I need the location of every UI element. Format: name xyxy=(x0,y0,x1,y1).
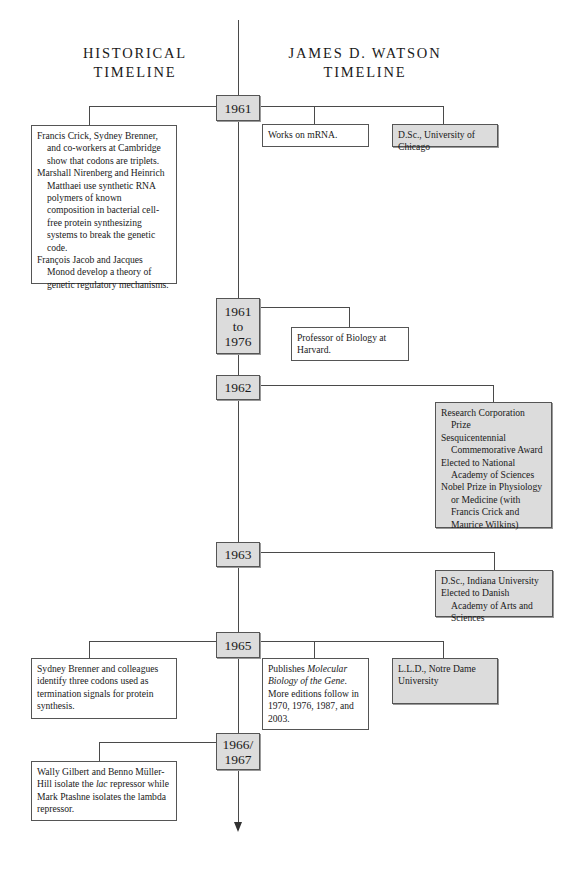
connector-1962-drop xyxy=(493,385,494,402)
gene-name: lac xyxy=(96,778,108,789)
connector-1961-mid xyxy=(314,106,315,124)
watson-award: Sesquicentennial Commemorative Award xyxy=(441,432,546,457)
watson-award: Research Corporation Prize xyxy=(441,407,546,432)
header-line: TIMELINE xyxy=(270,63,460,82)
watson-1963-awards-box: D.Sc., Indiana University Elected to Dan… xyxy=(435,570,553,617)
header-line: HISTORICAL xyxy=(60,44,210,63)
arrow-down-icon xyxy=(234,822,242,832)
watson-1961-award-box: D.Sc., University of Chicago xyxy=(392,124,498,147)
connector-1961-1976 xyxy=(260,307,349,308)
connector-1961-1976-drop xyxy=(349,307,350,327)
watson-1962-awards-box: Research Corporation Prize Sesquicentenn… xyxy=(435,402,552,528)
historical-event: Francis Crick, Sydney Brenner, and co-wo… xyxy=(37,130,171,167)
year-1966-1967: 1966/ 1967 xyxy=(216,733,260,770)
historical-1965-box: Sydney Brenner and colleagues identify t… xyxy=(31,658,177,719)
watson-1965-award-box: L.L.D., Notre Dame University xyxy=(392,658,498,704)
header-line: TIMELINE xyxy=(60,63,210,82)
historical-timeline-header: HISTORICAL TIMELINE xyxy=(60,44,210,82)
watson-timeline-header: JAMES D. WATSON TIMELINE xyxy=(270,44,460,82)
watson-award: L.L.D., Notre Dame University xyxy=(398,663,476,686)
historical-event: François Jacob and Jacques Monod develop… xyxy=(37,254,171,291)
connector-1963-drop xyxy=(494,552,495,570)
connector-1966-drop xyxy=(99,742,100,761)
watson-event: Professor of Biology at Harvard. xyxy=(297,332,386,355)
watson-1961-work-box: Works on mRNA. xyxy=(262,124,369,147)
watson-1965-work-box: Publishes Molecular Biology of the Gene.… xyxy=(262,658,369,730)
year-1961-to-1976: 1961 to 1976 xyxy=(216,298,260,354)
year-label: 1962 xyxy=(225,380,252,395)
year-label: 1966/ xyxy=(223,737,254,752)
connector-1965-left xyxy=(89,641,90,658)
watson-award: D.Sc., Indiana University xyxy=(441,575,547,587)
connector-1965-right xyxy=(443,641,444,658)
watson-award: D.Sc., University of Chicago xyxy=(398,129,475,152)
historical-1961-box: Francis Crick, Sydney Brenner, and co-wo… xyxy=(31,125,177,284)
year-label: 1976 xyxy=(225,334,252,349)
connector-1963 xyxy=(260,552,494,553)
year-1965: 1965 xyxy=(216,632,260,658)
connector-1962 xyxy=(260,385,493,386)
timeline-spine xyxy=(238,20,239,830)
historical-event: Sydney Brenner and colleagues identify t… xyxy=(37,663,158,711)
connector-1965 xyxy=(89,641,443,642)
watson-event-text: Publishes xyxy=(268,663,307,674)
year-label: 1961 xyxy=(225,101,252,116)
watson-1961-1976-box: Professor of Biology at Harvard. xyxy=(291,327,409,361)
header-line: JAMES D. WATSON xyxy=(270,44,460,63)
connector-1961-left xyxy=(89,106,90,125)
year-1961: 1961 xyxy=(216,95,260,121)
watson-event: Works on mRNA. xyxy=(268,129,337,140)
year-label: 1961 xyxy=(225,304,252,319)
year-label: to xyxy=(233,319,244,334)
watson-award: Nobel Prize in Physiology or Medicine (w… xyxy=(441,481,546,531)
historical-event: Marshall Nirenberg and Heinrich Matthaei… xyxy=(37,167,171,254)
connector-1965-mid xyxy=(314,641,315,658)
year-label: 1965 xyxy=(225,638,252,653)
connector-1961-right xyxy=(443,106,444,124)
connector-1966 xyxy=(99,742,216,743)
year-1963: 1963 xyxy=(216,542,260,567)
year-label: 1967 xyxy=(225,752,252,767)
year-1962: 1962 xyxy=(216,375,260,400)
connector-1961 xyxy=(89,106,443,107)
year-label: 1963 xyxy=(225,547,252,562)
historical-1966-box: Wally Gilbert and Benno Müller-Hill isol… xyxy=(31,761,177,821)
watson-award: Elected to Danish Academy of Arts and Sc… xyxy=(441,587,547,624)
watson-award: Elected to National Academy of Sciences xyxy=(441,457,546,482)
